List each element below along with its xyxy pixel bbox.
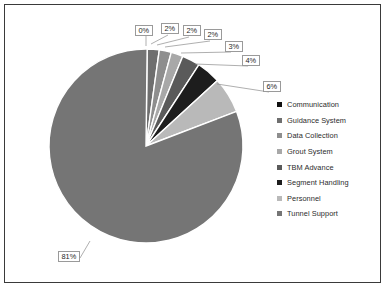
data-label-callout: 4% <box>242 55 260 66</box>
legend-label: Grout System <box>287 147 333 156</box>
pie-slice-group <box>49 49 243 243</box>
legend-swatch-tbm-advance <box>277 165 282 170</box>
legend-label: TBM Advance <box>287 163 334 172</box>
legend-swatch-data-collection <box>277 133 282 138</box>
legend-swatch-guidance-system <box>277 118 282 123</box>
data-label-callout: 2% <box>183 25 201 36</box>
data-label-callout: 81% <box>58 251 80 262</box>
legend-label: Tunnel Support <box>287 209 338 218</box>
legend-item[interactable]: Communication <box>277 97 381 113</box>
legend-swatch-personnel <box>277 196 282 201</box>
legend-item[interactable]: TBM Advance <box>277 159 381 175</box>
legend-label: Guidance System <box>287 116 346 125</box>
legend-label: Data Collection <box>287 131 338 140</box>
legend-swatch-grout-system <box>277 149 282 154</box>
chart-frame: Communication Guidance System Data Colle… <box>4 4 381 283</box>
legend-swatch-tunnel-support <box>277 211 282 216</box>
legend-label: Communication <box>287 100 339 109</box>
legend-item[interactable]: Guidance System <box>277 113 381 129</box>
legend-swatch-segment-handling <box>277 180 282 185</box>
legend-label: Segment Handling <box>287 178 349 187</box>
data-label-callout: 3% <box>225 41 243 52</box>
data-label-callout: 2% <box>161 23 179 34</box>
legend-item[interactable]: Segment Handling <box>277 175 381 191</box>
legend-item[interactable]: Data Collection <box>277 128 381 144</box>
data-label-callout: 0% <box>135 25 153 36</box>
data-label-callout: 2% <box>204 29 222 40</box>
legend-item[interactable]: Tunnel Support <box>277 206 381 222</box>
legend-item[interactable]: Grout System <box>277 144 381 160</box>
legend-swatch-communication <box>277 102 282 107</box>
pie-chart-plot-area: Communication Guidance System Data Colle… <box>5 5 380 282</box>
legend-label: Personnel <box>287 194 321 203</box>
legend-item[interactable]: Personnel <box>277 191 381 207</box>
data-label-callout: 6% <box>263 81 281 92</box>
chart-legend: Communication Guidance System Data Colle… <box>277 97 381 222</box>
